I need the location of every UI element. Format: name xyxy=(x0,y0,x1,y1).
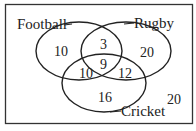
rugby-only-count: 20 xyxy=(140,45,154,60)
cricket-label: Cricket xyxy=(121,103,166,119)
venn-diagram: Football Rugby Cricket 10 20 3 9 10 12 1… xyxy=(0,0,196,131)
all-three-count: 9 xyxy=(100,57,107,72)
football-label: Football xyxy=(17,16,67,32)
football-only-count: 10 xyxy=(54,44,68,59)
rugby-label: Rugby xyxy=(134,15,175,31)
rugby-cricket-count: 12 xyxy=(118,66,132,81)
football-rugby-count: 3 xyxy=(100,37,107,52)
outside-count: 20 xyxy=(167,92,181,107)
cricket-only-count: 16 xyxy=(98,90,112,105)
football-cricket-count: 10 xyxy=(79,66,93,81)
